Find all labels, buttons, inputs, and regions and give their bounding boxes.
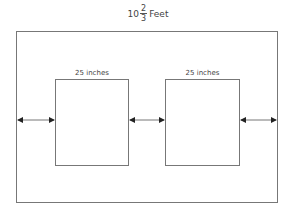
spacing-arrows <box>0 0 296 211</box>
